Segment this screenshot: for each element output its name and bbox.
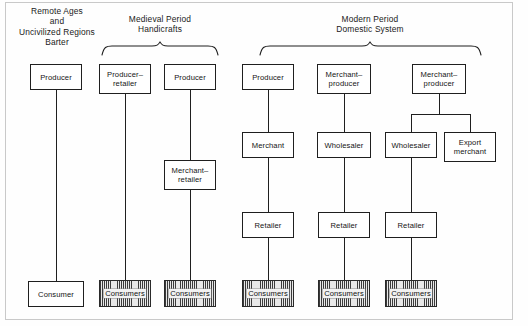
connector-retailer-consumers-5 bbox=[344, 238, 345, 280]
heading-remote-ages: Remote Ages and Uncivilized Regions Bart… bbox=[2, 6, 112, 48]
connector-wholesaler-retailer-5 bbox=[344, 158, 345, 212]
node-producer-3: Producer bbox=[164, 64, 216, 90]
node-consumers-5: Consumers bbox=[318, 280, 370, 307]
node-consumers-6-label: Consumers bbox=[390, 289, 432, 298]
node-consumers-3: Consumers bbox=[164, 280, 216, 307]
connector-producer-consumer-1 bbox=[56, 90, 57, 281]
node-retailer-6: Retailer bbox=[385, 212, 437, 238]
node-merchant-4: Merchant bbox=[242, 132, 294, 158]
node-consumer-1: Consumer bbox=[28, 281, 84, 307]
distribution-channels-diagram: Remote Ages and Uncivilized Regions Bart… bbox=[0, 0, 528, 326]
node-merchant-producer-5: Merchant– producer bbox=[317, 64, 371, 94]
connector-producer-merchant-4 bbox=[268, 90, 269, 132]
connector-merchant-retailer-4 bbox=[268, 158, 269, 212]
node-consumers-4-label: Consumers bbox=[247, 289, 289, 298]
connector-merchantretailer-consumers-3 bbox=[190, 190, 191, 280]
node-producer-1: Producer bbox=[30, 64, 82, 90]
node-producer-retailer-2: Producer– retailer bbox=[99, 64, 151, 94]
node-consumers-5-label: Consumers bbox=[323, 289, 365, 298]
connector-producer-merchantretailer-3 bbox=[190, 90, 191, 160]
connector-retailer-consumers-6 bbox=[411, 238, 412, 280]
node-producer-4: Producer bbox=[242, 64, 294, 90]
node-merchant-retailer-3: Merchant– retailer bbox=[164, 160, 216, 190]
connector-retailer-consumers-4 bbox=[268, 238, 269, 280]
node-merchant-producer-6: Merchant– producer bbox=[412, 64, 466, 94]
heading-medieval-period: Medieval Period Handicrafts bbox=[105, 14, 215, 35]
node-retailer-4: Retailer bbox=[242, 212, 294, 238]
connector-merchantproducer-split-bar-6 bbox=[411, 114, 470, 115]
node-retailer-5: Retailer bbox=[318, 212, 370, 238]
connector-producerretailer-consumers-2 bbox=[125, 94, 126, 280]
connector-wholesaler-retailer-6 bbox=[411, 158, 412, 212]
connector-split-to-wholesaler-6 bbox=[411, 114, 412, 132]
node-consumers-2-label: Consumers bbox=[104, 289, 146, 298]
node-export-merchant-6: Export merchant bbox=[444, 132, 496, 162]
node-consumers-2: Consumers bbox=[99, 280, 151, 307]
node-consumers-6: Consumers bbox=[385, 280, 437, 307]
node-consumers-3-label: Consumers bbox=[169, 289, 211, 298]
node-consumers-4: Consumers bbox=[242, 280, 294, 307]
connector-merchantproducer-split-stem-6 bbox=[439, 94, 440, 114]
heading-modern-period: Modern Period Domestic System bbox=[265, 14, 475, 35]
brace-medieval bbox=[100, 42, 220, 56]
connector-split-to-export-merchant-6 bbox=[470, 114, 471, 132]
node-wholesaler-5: Wholesaler bbox=[317, 132, 371, 158]
brace-modern bbox=[258, 42, 483, 56]
node-wholesaler-6: Wholesaler bbox=[385, 132, 437, 158]
connector-merchantproducer-wholesaler-5 bbox=[344, 94, 345, 132]
